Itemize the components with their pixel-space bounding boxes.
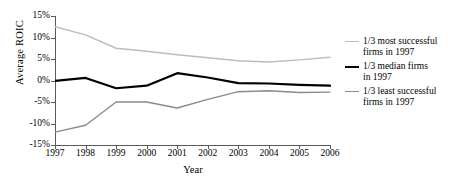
data-series-line [55, 91, 330, 132]
series-lines [55, 16, 331, 146]
legend-label-continued: in 1997 [363, 72, 456, 83]
legend-label: 1/3 median firms [363, 61, 456, 72]
y-tick-mark [51, 38, 55, 39]
y-tick-mark [51, 102, 55, 103]
y-tick-mark [51, 124, 55, 125]
x-tick-label: 2006 [310, 148, 350, 159]
data-series-line [55, 73, 330, 88]
x-axis-title: Year [55, 164, 331, 175]
y-tick-label: -10% [14, 119, 50, 128]
legend-label: 1/3 least successful [363, 86, 456, 97]
legend-item: 1/3 least successfulfirms in 1997 [345, 86, 456, 107]
legend-item: 1/3 median firmsin 1997 [345, 61, 456, 82]
plot-area [55, 16, 330, 145]
y-tick-mark [51, 59, 55, 60]
y-tick-mark [51, 81, 55, 82]
y-tick-label: -5% [14, 97, 50, 106]
y-tick-label: 10% [14, 33, 50, 42]
legend-line-swatch [345, 41, 359, 42]
y-tick-label: 5% [14, 54, 50, 63]
legend-label-continued: firms in 1997 [363, 47, 456, 58]
y-tick-label: 0% [14, 76, 50, 85]
chart-legend: 1/3 most successfulfirms in 19971/3 medi… [345, 36, 456, 111]
legend-line-swatch [345, 66, 359, 68]
x-axis-tick-labels: 1997199819992000200120022003200420052006 [55, 148, 335, 162]
legend-label: 1/3 most successful [363, 36, 456, 47]
roic-line-chart: Average ROIC 15%10%5%0%-5%-10%-15% 19971… [0, 0, 456, 186]
legend-line-swatch [345, 91, 359, 92]
legend-item: 1/3 most successfulfirms in 1997 [345, 36, 456, 57]
legend-label-continued: firms in 1997 [363, 97, 456, 108]
data-series-line [55, 27, 330, 62]
y-tick-mark [51, 16, 55, 17]
y-tick-label: 15% [14, 11, 50, 20]
